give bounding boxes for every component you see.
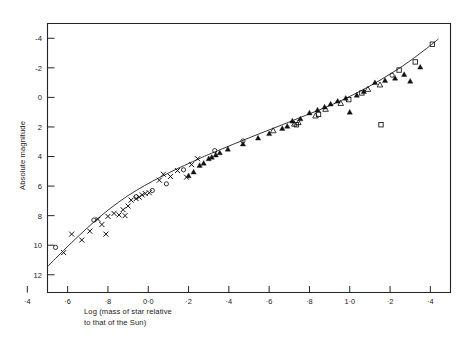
data-point (255, 135, 260, 140)
x-tick-label: ·8 (306, 297, 313, 306)
x-tick-label: ·6 (64, 297, 71, 306)
data-point (147, 190, 152, 195)
data-point (181, 168, 185, 172)
x-tick-label: ·2 (387, 297, 394, 306)
data-point (105, 214, 110, 219)
data-point (164, 182, 168, 186)
data-point (121, 207, 126, 212)
x-axis-tick-labels: ·4·6·80·0·2·4·6·81·0·2·4 (24, 297, 434, 306)
data-point (270, 128, 276, 133)
x-tick-label: ·4 (24, 297, 31, 306)
data-point (365, 86, 371, 91)
data-point (53, 245, 57, 249)
y-tick-label: 12 (34, 271, 42, 280)
y-tick-label: 2 (38, 123, 42, 132)
x-tick-label: ·8 (105, 297, 112, 306)
x-tick-label: 0·0 (143, 297, 154, 306)
data-point (168, 174, 173, 179)
data-point (123, 213, 128, 218)
y-tick-label: 8 (38, 212, 42, 221)
data-point (186, 173, 191, 178)
y-tick-label: 10 (34, 241, 42, 250)
data-point (280, 126, 285, 131)
scatter-plot: ·4·6·80·0·2·4·6·81·0·2·4 -4-2024681012 (0, 0, 467, 340)
data-point (103, 232, 108, 237)
y-axis-ticks (48, 38, 55, 274)
data-point (79, 238, 84, 243)
data-point (157, 178, 162, 183)
data-point (392, 75, 397, 80)
y-tick-label: -2 (35, 64, 42, 73)
y-tick-label: -4 (35, 34, 42, 43)
y-tick-label: 0 (38, 93, 42, 102)
data-point (390, 73, 394, 77)
data-point (126, 204, 131, 209)
data-point (69, 232, 74, 237)
data-point (347, 109, 352, 114)
data-point (307, 110, 312, 115)
data-point (129, 198, 134, 203)
data-point (377, 82, 383, 87)
data-point (328, 101, 333, 106)
y-tick-label: 4 (38, 152, 42, 161)
y-axis-title: Absolute magnitude (17, 96, 28, 216)
x-axis-ticks (27, 286, 430, 293)
data-point (379, 123, 383, 127)
data-point (402, 72, 407, 77)
x-tick-label: 1·0 (344, 297, 355, 306)
data-point (99, 222, 104, 227)
data-points (53, 42, 434, 255)
data-point (191, 169, 196, 174)
x-tick-label: ·2 (185, 297, 192, 306)
y-tick-label: 6 (38, 182, 42, 191)
data-point (87, 229, 92, 234)
x-tick-label: ·6 (266, 297, 273, 306)
x-axis-title: Log (mass of star relative to that of th… (84, 306, 172, 328)
data-point (111, 211, 116, 216)
x-tick-label: ·4 (226, 297, 233, 306)
data-point (201, 160, 206, 165)
data-point (285, 124, 290, 129)
fit-curve (48, 39, 439, 267)
x-tick-label: ·4 (427, 297, 434, 306)
plot-frame (48, 24, 451, 293)
data-point (418, 64, 423, 69)
y-axis-tick-labels: -4-2024681012 (34, 34, 42, 279)
data-point (354, 92, 359, 97)
data-point (117, 212, 122, 217)
data-point (313, 113, 319, 118)
series-cross (61, 156, 200, 255)
data-point (189, 162, 194, 167)
series-filled-triangle (186, 64, 423, 177)
data-point (408, 78, 413, 83)
data-point (413, 60, 417, 64)
figure-container: ·4·6·80·0·2·4·6·81·0·2·4 -4-2024681012 L… (0, 0, 467, 340)
